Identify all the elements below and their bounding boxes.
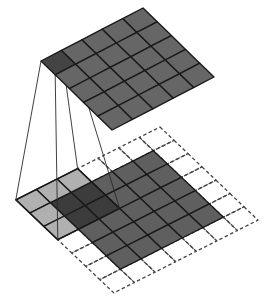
output-grid (41, 8, 214, 130)
padding-cell (223, 207, 258, 231)
convolution-diagram (0, 0, 269, 307)
projection-line-left (16, 61, 41, 200)
padding-cell (100, 269, 135, 293)
padding-cell (139, 127, 174, 151)
